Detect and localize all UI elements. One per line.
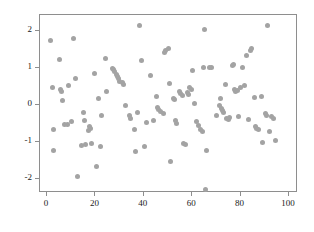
x-axis-tick-label: 20 <box>79 199 109 208</box>
plot-frame <box>39 14 297 192</box>
x-axis-tick-label: 40 <box>128 199 158 208</box>
y-axis-tick-label: -2 <box>25 173 33 182</box>
x-axis-tick-mark <box>46 192 47 196</box>
x-axis-tick-mark <box>240 192 241 196</box>
y-axis-tick-label: -1 <box>25 136 33 145</box>
y-axis-tick-mark <box>35 178 39 179</box>
x-axis-tick-mark <box>94 192 95 196</box>
y-axis-tick-label: 0 <box>28 99 33 108</box>
y-axis-tick-mark <box>35 30 39 31</box>
x-axis-tick-mark <box>288 192 289 196</box>
x-axis-tick-label: 60 <box>176 199 206 208</box>
y-axis-tick-mark <box>35 67 39 68</box>
y-axis-tick-label: 1 <box>28 62 33 71</box>
x-axis-tick-label: 80 <box>225 199 255 208</box>
x-axis-tick-label: 100 <box>273 199 303 208</box>
scatter-plot: 210-1-2020406080100 <box>0 0 314 232</box>
x-axis-tick-label: 0 <box>31 199 61 208</box>
y-axis-tick-mark <box>35 104 39 105</box>
x-axis-tick-mark <box>191 192 192 196</box>
y-axis-tick-label: 2 <box>28 25 33 34</box>
x-axis-tick-mark <box>143 192 144 196</box>
y-axis-tick-mark <box>35 141 39 142</box>
